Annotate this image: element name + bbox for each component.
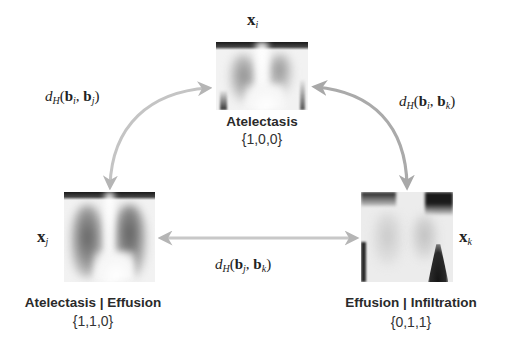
node-k-vector: {0,1,1} (326, 314, 496, 330)
node-k-label: Effusion | Infiltration (326, 295, 496, 310)
node-i-label: Atelectasis (212, 114, 312, 129)
edge-label-i-k: dH(bi, bk) (399, 93, 455, 111)
xray-image-j (64, 192, 155, 282)
xray-image-i (216, 42, 308, 110)
edge-arrow-i-j (110, 88, 208, 186)
node-k-variable: xk (459, 227, 472, 247)
node-i-variable: xi (247, 10, 258, 30)
edge-label-j-k: dH(bj, bk) (215, 256, 271, 274)
node-j-label: Atelectasis | Effusion (8, 295, 178, 310)
edge-label-i-j: dH(bi, bj) (45, 88, 99, 106)
node-j-vector: {1,1,0} (8, 313, 178, 329)
node-i-vector: {1,0,0} (212, 131, 312, 147)
node-j-variable: xj (37, 227, 48, 247)
edge-arrow-i-k (316, 87, 407, 186)
xray-image-k (361, 192, 453, 282)
